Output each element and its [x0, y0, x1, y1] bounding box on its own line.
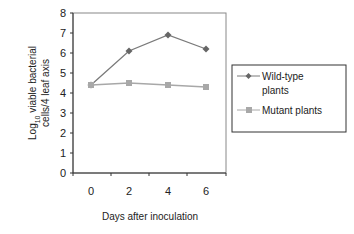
- plot-area: 0123456780246: [60, 7, 226, 197]
- y-tick-label: 4: [60, 87, 66, 99]
- legend-label-wild-type: Wild-type: [262, 71, 304, 82]
- x-tick-label: 6: [203, 185, 209, 197]
- legend: Wild-typeplantsMutant plants: [232, 65, 346, 132]
- square-marker: [126, 80, 132, 86]
- square-marker: [203, 84, 209, 90]
- y-tick-label: 1: [60, 147, 66, 159]
- square-marker: [88, 82, 94, 88]
- svg-text:plants: plants: [262, 85, 289, 96]
- series-line: [91, 35, 206, 85]
- diamond-marker: [165, 32, 172, 39]
- svg-text:cells/4 leaf axis: cells/4 leaf axis: [40, 59, 51, 127]
- x-tick-label: 2: [126, 185, 132, 197]
- y-tick-label: 5: [60, 67, 66, 79]
- x-axis-label: Days after inoculation: [102, 211, 198, 222]
- y-tick-label: 7: [60, 27, 66, 39]
- y-axis-label: Log10 viable bacterial cells/4 leaf axis: [27, 46, 51, 140]
- diamond-marker: [203, 46, 210, 53]
- series-line: [91, 83, 206, 87]
- y-tick-label: 6: [60, 47, 66, 59]
- x-tick-label: 0: [88, 185, 94, 197]
- y-tick-label: 3: [60, 107, 66, 119]
- y-tick-label: 2: [60, 127, 66, 139]
- x-tick-label: 4: [165, 185, 171, 197]
- svg-text:Log10 viable bacterial: Log10 viable bacterial: [27, 46, 41, 140]
- line-chart: 0123456780246 Wild-typeplantsMutant plan…: [0, 0, 354, 234]
- y-tick-label: 8: [60, 7, 66, 19]
- y-tick-label: 0: [60, 167, 66, 179]
- legend-label-mutant: Mutant plants: [262, 105, 322, 116]
- square-marker: [165, 82, 171, 88]
